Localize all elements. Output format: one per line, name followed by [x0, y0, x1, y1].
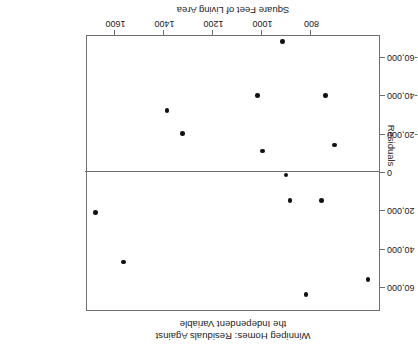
x-axis-tick-mark [114, 30, 115, 35]
y-axis: Residuals -60,000-40,000-20,000020,00040… [380, 35, 402, 311]
x-axis-tick-label: 1200 [193, 19, 233, 29]
data-point [260, 149, 265, 154]
y-axis-tick-label: 20,000 [387, 205, 415, 217]
data-point [255, 93, 260, 98]
x-axis-tick-mark [261, 30, 262, 35]
x-axis-tick-mark [212, 30, 213, 35]
data-point [93, 210, 98, 215]
y-axis-tick-label: -60,000 [387, 52, 418, 64]
y-axis-tick-mark [380, 249, 385, 250]
data-point [366, 277, 371, 282]
data-point [323, 93, 328, 98]
x-axis-tick-label: 1000 [242, 19, 282, 29]
y-axis-tick-label: -40,000 [387, 90, 418, 102]
data-point [121, 260, 126, 265]
y-axis-tick-label: 40,000 [387, 244, 415, 256]
plot-area [86, 35, 380, 311]
data-point [319, 198, 324, 203]
y-axis-tick-label: -20,000 [387, 129, 418, 141]
y-axis-tick-mark [380, 57, 385, 58]
y-axis-tick-label: 0 [387, 167, 392, 179]
data-point [332, 143, 337, 148]
y-axis-tick-mark [380, 172, 385, 173]
y-axis-tick-mark [380, 287, 385, 288]
x-axis-tick-label: 800 [291, 19, 331, 29]
data-point [304, 292, 309, 297]
x-axis-tick-label: 1600 [95, 19, 135, 29]
y-axis-tick-mark [380, 95, 385, 96]
y-axis-tick-mark [380, 210, 385, 211]
y-axis-tick-mark [380, 134, 385, 135]
x-axis-tick-label: 1400 [144, 19, 184, 29]
chart-title: Winnipeg Homes: Residuals Against the In… [86, 319, 380, 342]
data-point [288, 198, 293, 203]
chart-title-line-2: the Independent Variable [86, 319, 380, 331]
zero-reference-line [85, 172, 379, 173]
data-point [180, 131, 185, 136]
y-axis-tick-label: 60,000 [387, 282, 415, 294]
x-axis-title: Square Feet of Living Area [86, 5, 380, 16]
x-axis-tick-mark [310, 30, 311, 35]
x-axis-tick-mark [163, 30, 164, 35]
data-point [284, 173, 289, 178]
chart-title-line-1: Winnipeg Homes: Residuals Against [86, 331, 380, 343]
data-point [280, 39, 285, 44]
data-point [165, 108, 170, 113]
